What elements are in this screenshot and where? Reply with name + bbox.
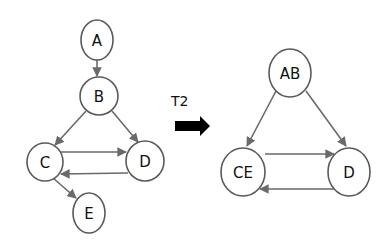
edge-b-to-d — [112, 111, 138, 142]
transform-label: T2 — [170, 93, 188, 109]
node-b-label: B — [94, 88, 104, 106]
edge-c-to-e — [53, 178, 76, 198]
node-d-merged-label: D — [343, 164, 355, 182]
node-d: D — [126, 141, 164, 181]
node-a: A — [81, 20, 113, 60]
edge-ab-to-d — [306, 91, 346, 146]
node-e-label: E — [84, 205, 93, 223]
node-e: E — [73, 193, 105, 233]
diagram-canvas: A B C D E T2 AB — [0, 0, 392, 244]
node-b: B — [80, 77, 118, 115]
node-ab-label: AB — [280, 65, 301, 83]
node-d-merged: D — [328, 148, 370, 196]
node-ce: CE — [221, 148, 265, 196]
edge-ab-to-ce — [247, 91, 276, 146]
node-c-label: C — [40, 154, 50, 172]
right-arrow-icon — [175, 116, 210, 136]
node-c: C — [27, 143, 63, 181]
transform-arrow: T2 — [170, 93, 210, 136]
node-d-label: D — [139, 153, 151, 171]
node-ab: AB — [269, 49, 311, 97]
edge-b-to-c — [55, 111, 86, 145]
node-ce-label: CE — [233, 164, 253, 182]
edge-d-to-c — [61, 173, 128, 174]
node-a-label: A — [92, 32, 103, 50]
graph-after: AB CE D — [221, 49, 370, 196]
graph-before: A B C D E — [27, 20, 164, 233]
